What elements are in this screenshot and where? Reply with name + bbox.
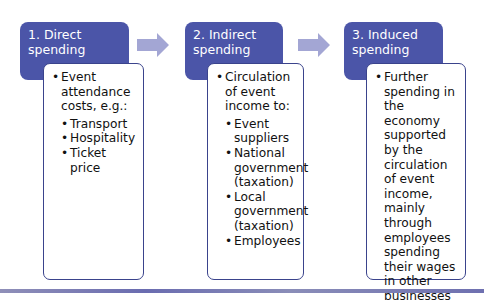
right-arrow-icon xyxy=(298,33,330,57)
stage-2-sub-bullet: Event suppliers xyxy=(225,117,299,146)
bottom-divider xyxy=(0,289,484,293)
stage-1-sub-bullet: Hospitality xyxy=(61,131,139,146)
right-arrow-icon xyxy=(137,33,169,57)
stage-1-bullet-text: Event attendance costs, e.g.: xyxy=(61,70,130,113)
stage-1-bullet: Event attendance costs, e.g.: Transport … xyxy=(52,70,139,175)
stage-1-title-line1: 1. Direct xyxy=(28,27,121,42)
stage-2-body: Circulation of event income to: Event su… xyxy=(207,63,304,280)
stage-2-sub-bullet: Employees xyxy=(225,234,299,249)
stage-2-bullet-text: Circulation of event income to: xyxy=(225,70,290,113)
stage-1-body: Event attendance costs, e.g.: Transport … xyxy=(43,63,144,280)
stage-3-title-line1: 3. Induced xyxy=(352,27,435,42)
stage-2-title-line2: spending xyxy=(193,42,275,57)
stage-3-bullet: Further spending in the economy supporte… xyxy=(375,70,461,304)
stage-2-title-line1: 2. Indirect xyxy=(193,27,275,42)
stage-1-sub-bullet: Transport xyxy=(61,117,139,132)
stage-2-bullet: Circulation of event income to: Event su… xyxy=(216,70,299,248)
stage-3-body: Further spending in the economy supporte… xyxy=(366,63,466,280)
stage-2-sub-bullet: National government (taxation) xyxy=(225,146,299,190)
stage-3-title-line2: spending xyxy=(352,42,435,57)
stage-2-sub-bullet: Local government (taxation) xyxy=(225,190,299,234)
stage-1-sub-bullet: Ticket price xyxy=(61,146,139,175)
stage-1-title-line2: spending xyxy=(28,42,121,57)
